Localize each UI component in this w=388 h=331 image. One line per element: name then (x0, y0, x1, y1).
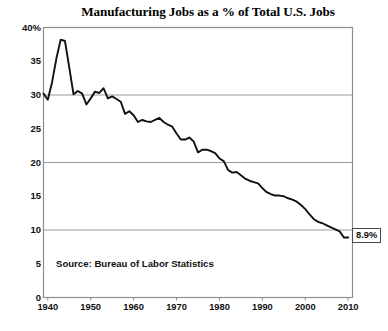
x-axis-tick-label: 2010 (338, 303, 359, 312)
x-axis-tick-label: 1960 (123, 303, 144, 312)
x-axis-tick-label: 1940 (37, 303, 58, 312)
x-axis-tick-label: 1990 (252, 303, 273, 312)
x-axis-tick-labels: 19401950196019701980199020002010 (0, 0, 388, 331)
source-note: Source: Bureau of Labor Statistics (56, 258, 214, 269)
x-axis-tick-label: 2000 (295, 303, 316, 312)
x-axis-tick-label: 1970 (166, 303, 187, 312)
chart-figure: Manufacturing Jobs as a % of Total U.S. … (0, 0, 388, 331)
end-value-callout: 8.9% (352, 228, 381, 243)
x-axis-tick-label: 1950 (80, 303, 101, 312)
x-axis-tick-label: 1980 (209, 303, 230, 312)
